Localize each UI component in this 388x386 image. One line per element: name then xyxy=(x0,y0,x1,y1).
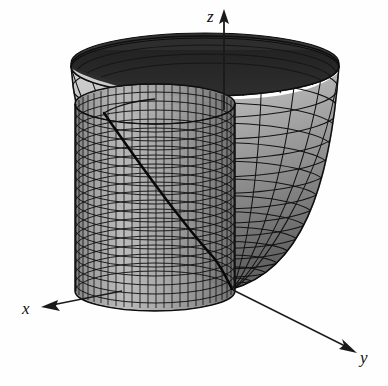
figure-root: z x y xyxy=(0,0,388,386)
z-axis-label: z xyxy=(207,8,214,25)
three-d-surface-plot xyxy=(0,0,388,386)
x-axis-label: x xyxy=(22,300,30,317)
y-axis-label: y xyxy=(360,349,368,366)
